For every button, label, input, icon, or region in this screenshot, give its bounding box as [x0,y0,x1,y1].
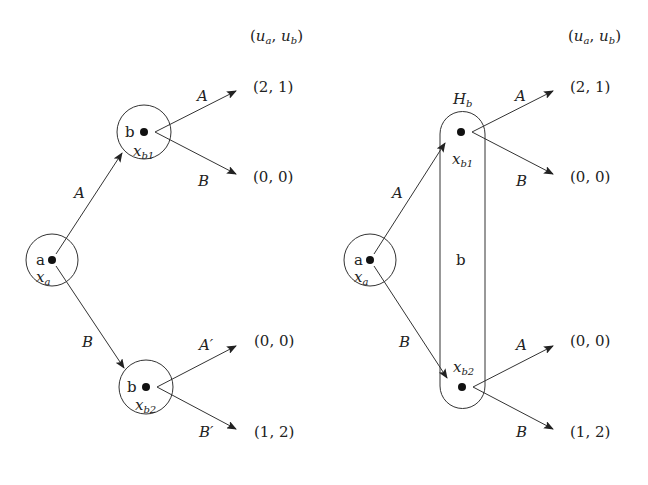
payoff: (1, 2) [570,423,610,441]
svg-text:xb1: xb1 [452,150,473,169]
right-edge-root-b2 [374,266,447,378]
svg-text:A′: A′ [197,336,214,354]
payoff: (0, 0) [570,332,610,350]
left-node-b2: b xb2 [119,360,173,415]
svg-text:A: A [513,87,526,105]
payoff: (2, 1) [570,78,610,96]
left-edge-root-b1 [56,153,122,254]
svg-text:B: B [398,333,410,351]
svg-text:B: B [515,172,527,190]
right-node-b2 [458,383,466,391]
svg-text:xa: xa [354,268,368,287]
info-set-player: b [456,251,466,269]
payoff: (0, 0) [254,332,294,350]
svg-text:xb2: xb2 [453,358,474,377]
node-label: xa [36,268,50,287]
payoff: (2, 1) [253,78,293,96]
right-b2-edge-B [473,387,553,429]
svg-text:A: A [514,336,527,354]
left-node-b1: b xb1 [117,105,171,161]
information-set-Hb: Hb b [440,90,485,409]
game-trees-diagram: (ua, ub) a xa A B b xb1 A B b xb2 [0,0,648,485]
svg-text:a: a [354,251,363,269]
right-edge-root-b1 [374,143,445,254]
svg-text:b: b [125,123,135,141]
right-payoff-header: (ua, ub) [568,27,621,46]
svg-text:B: B [197,172,209,190]
right-node-b1 [457,128,465,136]
left-edge-root-b1-label: A [72,184,85,202]
svg-text:xb1: xb1 [133,142,154,161]
left-b2-edge-B [157,387,236,429]
right-root-node: a xa [344,234,396,287]
right-tree: (ua, ub) a xa Hb b A B xb1 A B xb2 A [344,27,621,441]
svg-text:xb2: xb2 [135,396,156,415]
payoff: (0, 0) [253,168,293,186]
left-payoff-header: (ua, ub) [250,27,303,46]
info-set-label: Hb [452,90,473,109]
svg-text:B: B [515,423,527,441]
right-b1-edge-A [472,91,553,132]
left-b2-edge-A [157,346,236,387]
payoff: (1, 2) [254,423,294,441]
svg-text:b: b [127,378,137,396]
left-edge-root-b2-label: B [81,333,93,351]
svg-text:B′: B′ [198,423,214,441]
left-root-node: a xa [26,234,78,287]
left-edge-root-b2 [56,266,124,368]
player-label: a [36,251,45,269]
left-b1-edge-B [155,132,236,174]
svg-text:A: A [390,184,403,202]
svg-text:A: A [195,87,208,105]
right-b1-edge-B [472,132,553,174]
payoff: (0, 0) [570,168,610,186]
left-tree: (ua, ub) a xa A B b xb1 A B b xb2 [26,27,303,441]
left-b1-edge-A [155,91,236,132]
